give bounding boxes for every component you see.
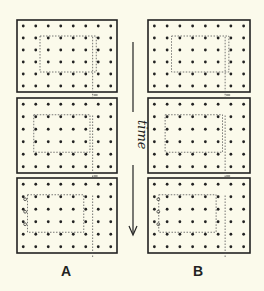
open-marker	[157, 223, 160, 226]
dot	[204, 115, 207, 118]
dot	[97, 37, 100, 40]
dot	[166, 195, 169, 198]
open-marker	[157, 198, 160, 201]
time-label: time	[135, 120, 150, 150]
dot	[191, 85, 194, 88]
dot	[166, 183, 169, 186]
dot	[166, 61, 169, 64]
dot	[153, 195, 156, 198]
dot	[242, 220, 245, 223]
dot	[22, 165, 25, 168]
dot	[72, 153, 75, 156]
dot	[242, 140, 245, 143]
dot	[217, 37, 220, 40]
dot	[229, 208, 232, 211]
dot	[178, 153, 181, 156]
dot	[34, 61, 37, 64]
dotted-window	[40, 36, 96, 72]
dot	[204, 220, 207, 223]
dot	[178, 165, 181, 168]
dot	[47, 195, 50, 198]
panel-frame	[148, 178, 250, 253]
dot	[97, 128, 100, 131]
dot	[34, 183, 37, 186]
dot	[217, 165, 220, 168]
dot	[59, 195, 62, 198]
dot	[34, 153, 37, 156]
dot	[47, 165, 50, 168]
dot	[153, 153, 156, 156]
dot	[204, 233, 207, 236]
dot	[72, 37, 75, 40]
dot	[72, 25, 75, 28]
dotted-window	[28, 195, 84, 233]
dot	[22, 233, 25, 236]
dot	[34, 195, 37, 198]
dot	[59, 49, 62, 52]
dot	[59, 73, 62, 76]
dot	[59, 183, 62, 186]
dot	[242, 49, 245, 52]
dot	[84, 233, 87, 236]
dot	[109, 25, 112, 28]
dot	[217, 233, 220, 236]
dot	[97, 49, 100, 52]
panel-frame	[17, 20, 117, 92]
dot	[72, 220, 75, 223]
dot	[22, 73, 25, 76]
dot	[72, 103, 75, 106]
dot	[97, 195, 100, 198]
dot	[72, 73, 75, 76]
dot	[229, 245, 232, 248]
diagram: time	[0, 0, 264, 291]
dot	[34, 25, 37, 28]
dot	[217, 73, 220, 76]
dot	[178, 195, 181, 198]
dot	[191, 25, 194, 28]
dot	[204, 195, 207, 198]
dot	[109, 233, 112, 236]
dot	[47, 183, 50, 186]
dot	[72, 165, 75, 168]
dot	[84, 140, 87, 143]
dot	[178, 25, 181, 28]
panel-frame	[148, 98, 250, 173]
dot	[204, 128, 207, 131]
dot	[166, 233, 169, 236]
dot	[84, 25, 87, 28]
dot	[242, 153, 245, 156]
dot	[47, 85, 50, 88]
dot	[166, 25, 169, 28]
dot	[97, 183, 100, 186]
dot	[217, 245, 220, 248]
dot	[84, 220, 87, 223]
dot	[97, 233, 100, 236]
dot	[204, 183, 207, 186]
dot	[242, 115, 245, 118]
dot	[242, 208, 245, 211]
dot	[153, 73, 156, 76]
dot	[191, 208, 194, 211]
dot	[84, 128, 87, 131]
dot	[47, 25, 50, 28]
dot	[47, 245, 50, 248]
dot	[229, 73, 232, 76]
dot	[109, 115, 112, 118]
dot	[217, 220, 220, 223]
dot	[109, 103, 112, 106]
dot	[34, 49, 37, 52]
dot	[242, 233, 245, 236]
dot	[166, 37, 169, 40]
dot	[242, 25, 245, 28]
dot	[34, 245, 37, 248]
dot	[153, 25, 156, 28]
dot	[72, 61, 75, 64]
dot	[153, 140, 156, 143]
dot	[191, 37, 194, 40]
dot	[204, 245, 207, 248]
dot	[72, 208, 75, 211]
dot	[166, 165, 169, 168]
dot	[153, 183, 156, 186]
dot	[153, 103, 156, 106]
dot	[242, 103, 245, 106]
